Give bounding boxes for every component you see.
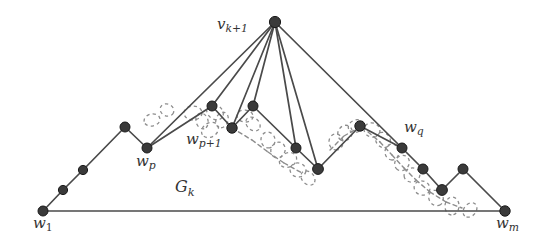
graph-vertex (355, 121, 365, 131)
vertex-label-w-p: wp (136, 154, 156, 172)
dashed-edge (268, 152, 284, 163)
dashed-blob (373, 129, 394, 150)
graph-vertex (207, 101, 217, 111)
label-subscript: k+1 (225, 22, 247, 35)
dashed-edge (404, 168, 416, 180)
apex-edge (253, 22, 275, 106)
graph-vertex (418, 164, 428, 174)
label-base: w (186, 130, 199, 148)
apex-edge (232, 22, 275, 128)
label-base: G (175, 177, 188, 196)
graph-vertex (458, 164, 468, 174)
graph-edge (463, 169, 505, 211)
dashed-blob (268, 140, 288, 161)
dashed-edge (446, 202, 462, 208)
dashed-blob (260, 131, 277, 149)
graph-vertex (313, 164, 324, 175)
graph-diagram (0, 0, 548, 247)
apex-edge (147, 22, 275, 148)
label-subscript: q (417, 125, 424, 138)
label-base: w (33, 214, 46, 232)
label-subscript: p (149, 159, 156, 172)
graph-vertex (58, 185, 67, 194)
graph-vertex (269, 16, 280, 27)
label-subscript: p+1 (199, 137, 222, 150)
graph-vertex (248, 101, 258, 111)
dashed-edge (330, 136, 344, 150)
graph-edge (318, 126, 360, 169)
dashed-blob (143, 112, 161, 127)
dashed-blob (243, 114, 263, 134)
graph-edge (83, 127, 125, 170)
dashed-blob (460, 200, 480, 220)
label-subscript: m (509, 221, 519, 234)
graph-vertex (291, 143, 301, 153)
figure-container: vk+1 wp wp+1 wq w1 wm Gk (0, 0, 548, 247)
graph-vertex (437, 185, 448, 196)
label-base: w (404, 118, 417, 136)
graph-edge (360, 126, 402, 148)
solid-edge-group (43, 106, 505, 211)
label-base: w (496, 214, 509, 232)
dashed-blob (328, 133, 344, 150)
graph-vertex (227, 123, 237, 133)
label-subscript: k (188, 185, 195, 199)
label-subscript: 1 (46, 221, 53, 234)
dashed-edge (252, 140, 268, 152)
vertex-label-w-p-plus-1: wp+1 (186, 132, 222, 150)
vertex-label-w-q: wq (404, 120, 424, 138)
vertex-label-w-m: wm (496, 216, 519, 234)
vertex-group (38, 16, 510, 216)
label-base: w (136, 152, 149, 170)
graph-vertex (120, 122, 130, 132)
graph-vertex (397, 143, 407, 153)
vertex-label-w-1: w1 (33, 216, 53, 234)
vertex-label-v-k-plus-1: vk+1 (217, 17, 248, 35)
graph-vertex (78, 165, 87, 174)
dashed-blob (158, 102, 176, 119)
graph-label-g-k: Gk (175, 179, 195, 198)
dashed-edge (416, 180, 430, 192)
